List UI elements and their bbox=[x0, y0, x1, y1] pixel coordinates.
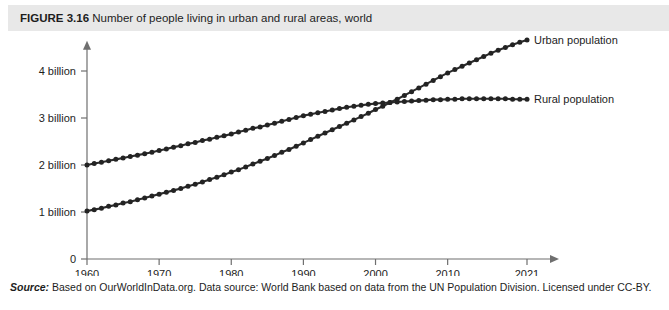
series-label-urban: Urban population bbox=[534, 34, 618, 46]
series-data-point bbox=[474, 96, 479, 101]
series-data-point bbox=[301, 113, 306, 118]
series-data-point bbox=[157, 148, 162, 153]
x-axis-tick-label: 1960 bbox=[75, 268, 99, 276]
series-data-point bbox=[323, 131, 328, 136]
x-axis-arrow-icon bbox=[550, 255, 559, 263]
series-data-point bbox=[178, 186, 183, 191]
series-data-point bbox=[85, 209, 90, 214]
series-data-point bbox=[416, 98, 421, 103]
series-data-point bbox=[301, 140, 306, 145]
series-data-point bbox=[366, 111, 371, 116]
series-data-point bbox=[121, 155, 126, 160]
series-line-rural bbox=[87, 99, 527, 165]
source-text: Based on OurWorldInData.org. Data source… bbox=[52, 281, 651, 293]
series-data-point bbox=[279, 119, 284, 124]
series-data-point bbox=[85, 163, 90, 168]
series-data-point bbox=[128, 199, 133, 204]
series-data-point bbox=[272, 153, 277, 158]
series-data-point bbox=[380, 100, 385, 105]
series-data-point bbox=[171, 145, 176, 150]
y-axis-tick-label: 0 bbox=[70, 253, 76, 265]
series-data-point bbox=[250, 126, 255, 131]
series-label-rural: Rural population bbox=[534, 93, 614, 105]
series-data-point bbox=[366, 102, 371, 107]
series-data-point bbox=[315, 134, 320, 139]
chart-plot-area: 01 billion2 billion3 billion4 billion 19… bbox=[0, 31, 669, 276]
series-data-point bbox=[214, 135, 219, 140]
series-data-point bbox=[431, 78, 436, 83]
series-data-point bbox=[488, 96, 493, 101]
series-data-point bbox=[481, 96, 486, 101]
x-axis-tick-label: 2010 bbox=[435, 268, 459, 276]
series-data-point bbox=[330, 127, 335, 132]
series-data-point bbox=[294, 115, 299, 120]
series-data-point bbox=[424, 82, 429, 87]
series-data-point bbox=[330, 108, 335, 113]
series-data-point bbox=[467, 61, 472, 66]
series-data-point bbox=[474, 57, 479, 62]
series-data-point bbox=[344, 105, 349, 110]
series-data-point bbox=[178, 143, 183, 148]
series-data-point bbox=[525, 37, 530, 42]
x-axis-tick-label: 1970 bbox=[147, 268, 171, 276]
series-data-point bbox=[416, 85, 421, 90]
series-data-point bbox=[279, 150, 284, 155]
series-data-point bbox=[460, 96, 465, 101]
x-axis: 1960197019801990200020102021 bbox=[75, 255, 559, 276]
x-axis-tick-label: 2021 bbox=[515, 268, 539, 276]
series-data-point bbox=[92, 207, 97, 212]
series-data-point bbox=[409, 99, 414, 104]
series-data-point bbox=[402, 93, 407, 98]
source-note: Source: Based on OurWorldInData.org. Dat… bbox=[10, 281, 655, 294]
series-data-point bbox=[258, 124, 263, 129]
series-data-point bbox=[265, 123, 270, 128]
series-data-point bbox=[265, 156, 270, 161]
series-data-point bbox=[359, 114, 364, 119]
series-data-point bbox=[171, 188, 176, 193]
series-data-point bbox=[481, 54, 486, 59]
series-data-point bbox=[496, 48, 501, 53]
series-data-point bbox=[510, 97, 515, 102]
series-data-point bbox=[258, 159, 263, 164]
series-data-point bbox=[402, 99, 407, 104]
series-data-point bbox=[214, 175, 219, 180]
series-data-point bbox=[99, 206, 104, 211]
line-chart-svg: 01 billion2 billion3 billion4 billion 19… bbox=[0, 31, 669, 276]
series-data-point bbox=[164, 190, 169, 195]
series-data-point bbox=[222, 133, 227, 138]
series-data-point bbox=[243, 128, 248, 133]
series-data-point bbox=[157, 192, 162, 197]
series-data-point bbox=[113, 157, 118, 162]
series-data-point bbox=[193, 182, 198, 187]
series-data-point bbox=[517, 97, 522, 102]
series-data-point bbox=[185, 184, 190, 189]
series-data-point bbox=[250, 162, 255, 167]
series-data-point bbox=[294, 144, 299, 149]
figure-caption: FIGURE 3.16 Number of people living in u… bbox=[20, 10, 372, 26]
series-data-point bbox=[452, 97, 457, 102]
x-axis-tick-label: 2000 bbox=[363, 268, 387, 276]
x-axis-tick-label: 1980 bbox=[219, 268, 243, 276]
series-data-point bbox=[438, 74, 443, 79]
series-data-point bbox=[142, 195, 147, 200]
series-data-point bbox=[229, 131, 234, 136]
figure-number: FIGURE 3.16 bbox=[20, 12, 89, 24]
y-axis: 01 billion2 billion3 billion4 billion bbox=[39, 41, 91, 265]
series-data-point bbox=[243, 164, 248, 169]
series-data-point bbox=[142, 151, 147, 156]
source-label: Source: bbox=[10, 281, 49, 293]
series-data-point bbox=[272, 121, 277, 126]
series-data-point bbox=[395, 100, 400, 105]
series-data-point bbox=[308, 112, 313, 117]
series-data-point bbox=[424, 98, 429, 103]
x-axis-tick-label: 1990 bbox=[291, 268, 315, 276]
series-data-point bbox=[164, 147, 169, 152]
series-data-point bbox=[149, 194, 154, 199]
series-data-point bbox=[460, 64, 465, 69]
series-data-point bbox=[92, 161, 97, 166]
series-data-point bbox=[525, 97, 530, 102]
series-data-point bbox=[438, 97, 443, 102]
series-data-point bbox=[517, 40, 522, 45]
series-data-point bbox=[106, 204, 111, 209]
series-labels-group: Urban populationRural population bbox=[534, 34, 618, 105]
